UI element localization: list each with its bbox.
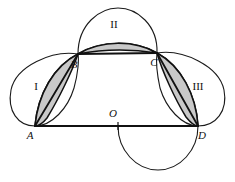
- label-region-III: III: [193, 80, 204, 92]
- label-point-A: A: [26, 129, 34, 141]
- geometry-diagram: A B C D O I II III: [0, 0, 235, 182]
- label-region-I: I: [34, 80, 38, 92]
- semicircle-OD-outline: [118, 126, 198, 170]
- label-point-B: B: [71, 58, 78, 70]
- geometry-figure-container: A B C D O I II III: [0, 0, 235, 182]
- label-point-O: O: [109, 107, 117, 119]
- label-region-II: II: [110, 18, 118, 30]
- label-point-D: D: [197, 129, 206, 141]
- label-point-C: C: [150, 56, 158, 68]
- segment-BC: [78, 53, 157, 54]
